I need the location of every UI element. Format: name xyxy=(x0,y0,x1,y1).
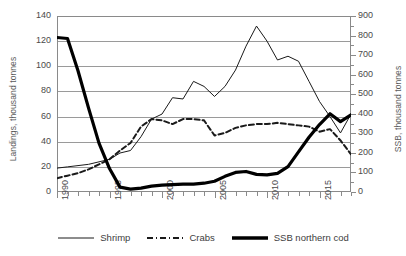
dashed-line-icon xyxy=(146,233,184,243)
x-axis-minor-tickmark xyxy=(152,192,153,196)
x-axis-minor-tickmark xyxy=(173,192,174,196)
y-axis-right-tick-label: 300 xyxy=(358,128,388,137)
y-axis-right-tick-label: 900 xyxy=(358,11,388,20)
y-axis-left-tick-label: 120 xyxy=(23,36,51,45)
y-axis-right-minor-tickmark xyxy=(351,143,354,144)
y-axis-right-tick-label: 800 xyxy=(358,31,388,40)
y-axis-right-minor-tickmark xyxy=(351,65,354,66)
y-axis-right-tickmark xyxy=(351,114,356,115)
x-axis-major-tickmark xyxy=(215,192,216,198)
x-axis-major-tickmark xyxy=(320,192,321,198)
y-axis-right-tick-label: 400 xyxy=(358,109,388,118)
series-line-ssb-northern-cod xyxy=(57,38,351,190)
series-layer xyxy=(57,16,351,192)
y-axis-right-tick-label: 100 xyxy=(358,167,388,176)
legend-item-ssb-northern-cod[interactable]: SSB northern cod xyxy=(231,232,349,243)
x-axis-minor-tickmark xyxy=(341,192,342,196)
x-axis-major-tickmark xyxy=(57,192,58,198)
legend-item-crabs[interactable]: Crabs xyxy=(146,232,214,243)
y-axis-right-minor-tickmark xyxy=(351,182,354,183)
y-axis-right-minor-tickmark xyxy=(351,163,354,164)
x-axis-minor-tickmark xyxy=(141,192,142,196)
y-axis-right-tickmark xyxy=(351,75,356,76)
legend-item-shrimp[interactable]: Shrimp xyxy=(57,232,130,243)
y-axis-right-minor-tickmark xyxy=(351,45,354,46)
y-axis-right-tick-label: 700 xyxy=(358,50,388,59)
x-axis-minor-tickmark xyxy=(131,192,132,196)
y-axis-right-tick-label: 0 xyxy=(358,187,388,196)
x-axis-major-tickmark xyxy=(110,192,111,198)
x-axis-minor-tickmark xyxy=(68,192,69,196)
y-axis-right-minor-tickmark xyxy=(351,104,354,105)
legend-label: Shrimp xyxy=(100,232,130,243)
y-axis-right-minor-tickmark xyxy=(351,26,354,27)
y-axis-left-tick-label: 40 xyxy=(23,137,51,146)
x-axis-minor-tickmark xyxy=(257,192,258,196)
x-axis-minor-tickmark xyxy=(89,192,90,196)
y-axis-right-tickmark xyxy=(351,16,356,17)
solid-thin-line-icon xyxy=(57,233,95,243)
x-axis-minor-tickmark xyxy=(309,192,310,196)
chart-legend: ShrimpCrabsSSB northern cod xyxy=(0,232,406,243)
legend-label: SSB northern cod xyxy=(274,232,349,243)
y-axis-right-tickmark xyxy=(351,133,356,134)
y-axis-left-tick-label: 100 xyxy=(23,61,51,70)
y-axis-right-title: SSB, thousand tonnes xyxy=(393,49,403,169)
y-axis-right-minor-tickmark xyxy=(351,124,354,125)
y-axis-left-tick-label: 0 xyxy=(23,187,51,196)
x-axis-minor-tickmark xyxy=(278,192,279,196)
y-axis-right-tick-label: 500 xyxy=(358,89,388,98)
y-axis-right-tick-label: 200 xyxy=(358,148,388,157)
y-axis-right-tick-label: 600 xyxy=(358,70,388,79)
y-axis-right-tickmark xyxy=(351,153,356,154)
x-axis-minor-tickmark xyxy=(351,192,352,196)
x-axis-minor-tickmark xyxy=(246,192,247,196)
y-axis-left-title: Landings, thousand tonnes xyxy=(8,49,18,169)
x-axis-minor-tickmark xyxy=(225,192,226,196)
chart-container: Landings, thousand tonnes SSB, thousand … xyxy=(0,0,406,256)
solid-thick-line-icon xyxy=(231,233,269,243)
y-axis-left-tick-label: 80 xyxy=(23,86,51,95)
x-axis-minor-tickmark xyxy=(288,192,289,196)
x-axis-major-tickmark xyxy=(267,192,268,198)
y-axis-right-tickmark xyxy=(351,94,356,95)
x-axis-minor-tickmark xyxy=(183,192,184,196)
legend-label: Crabs xyxy=(189,232,214,243)
x-axis-major-tickmark xyxy=(162,192,163,198)
x-axis-minor-tickmark xyxy=(120,192,121,196)
x-axis-minor-tickmark xyxy=(204,192,205,196)
y-axis-right-tickmark xyxy=(351,36,356,37)
y-axis-left-tick-label: 140 xyxy=(23,11,51,20)
y-axis-left-tick-label: 60 xyxy=(23,112,51,121)
x-axis-minor-tickmark xyxy=(299,192,300,196)
y-axis-right-tickmark xyxy=(351,172,356,173)
x-axis-minor-tickmark xyxy=(194,192,195,196)
y-axis-right-minor-tickmark xyxy=(351,84,354,85)
y-axis-right-tickmark xyxy=(351,55,356,56)
x-axis-minor-tickmark xyxy=(99,192,100,196)
x-axis-minor-tickmark xyxy=(330,192,331,196)
x-axis-minor-tickmark xyxy=(236,192,237,196)
x-axis-minor-tickmark xyxy=(78,192,79,196)
y-axis-left-tick-label: 20 xyxy=(23,162,51,171)
